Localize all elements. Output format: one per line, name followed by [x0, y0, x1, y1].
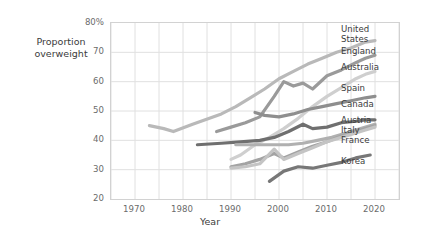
legend-label: Korea: [341, 157, 365, 167]
legend-label: Australia: [341, 63, 379, 73]
x-axis-label: Year: [180, 216, 240, 228]
legend-label: France: [341, 136, 370, 146]
y-tick-label: 20: [78, 193, 104, 203]
x-tick-label: 2020: [354, 204, 394, 214]
x-tick-label: 1970: [114, 204, 154, 214]
legend-label: Canada: [341, 100, 374, 110]
legend-label: United States: [341, 25, 369, 44]
x-tick-label: 1980: [162, 204, 202, 214]
y-tick-label: 70: [78, 46, 104, 56]
y-tick-label: 60: [78, 76, 104, 86]
overweight-proportion-line-chart: Proportion overweight Year 2030405060708…: [0, 0, 422, 237]
legend-label: Spain: [341, 84, 365, 94]
y-tick-label: 40: [78, 134, 104, 144]
y-tick-label: 30: [78, 164, 104, 174]
y-tick-label: 50: [78, 105, 104, 115]
x-tick-label: 2010: [306, 204, 346, 214]
x-tick-label: 2000: [258, 204, 298, 214]
legend-label: England: [341, 47, 376, 57]
y-tick-label: 80%: [78, 17, 104, 27]
x-tick-label: 1990: [210, 204, 250, 214]
